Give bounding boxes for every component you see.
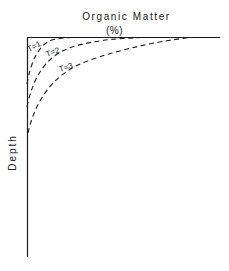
curve-label-t1: T=1 [26,39,43,54]
diagram-canvas: T=1 T=2 T=3 [0,0,229,271]
curve-t2 [27,38,145,108]
curve-label-t2: T=2 [45,45,62,58]
curve-label-t3: T=3 [58,61,75,74]
